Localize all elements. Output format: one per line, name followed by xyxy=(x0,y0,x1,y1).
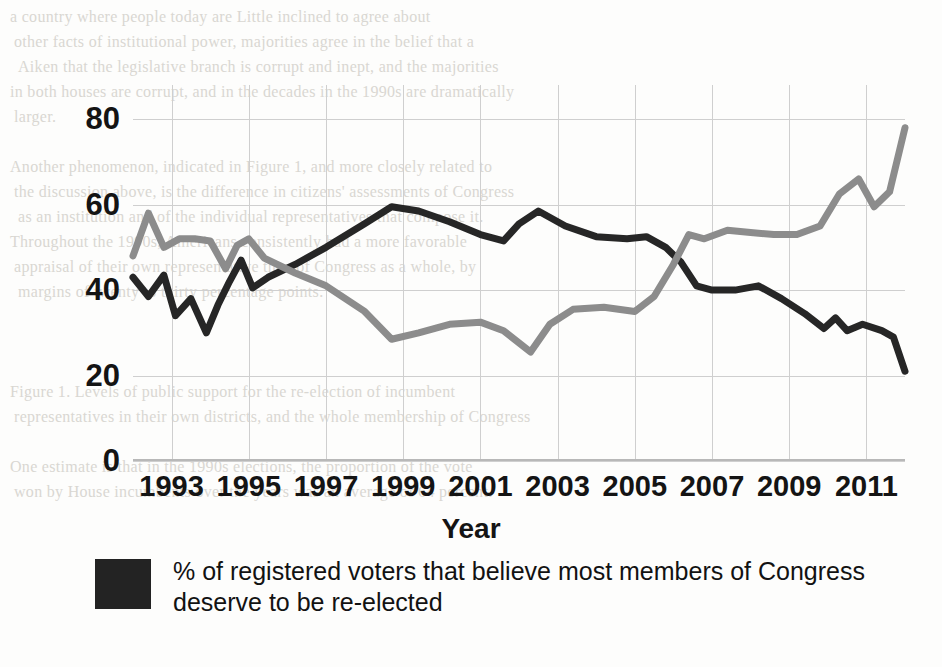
y-tick-60: 60 xyxy=(10,187,120,223)
x-tick-1999: 1999 xyxy=(371,470,436,503)
y-tick-20: 20 xyxy=(10,358,120,394)
y-tick-40: 40 xyxy=(10,272,120,308)
chart-legend: % of registered voters that believe most… xyxy=(95,556,865,618)
x-tick-2007: 2007 xyxy=(680,470,745,503)
chart-figure: 020406080 199319951997199920012003200520… xyxy=(0,0,942,667)
legend-label-line-2: deserve to be re-elected xyxy=(173,587,865,618)
x-axis-title: Year xyxy=(0,513,942,545)
x-tick-2005: 2005 xyxy=(603,470,668,503)
legend-label-congress: % of registered voters that believe most… xyxy=(173,556,865,618)
x-tick-1993: 1993 xyxy=(139,470,204,503)
legend-swatch-congress xyxy=(95,559,151,609)
y-tick-0: 0 xyxy=(10,443,120,479)
legend-label-line-1: % of registered voters that believe most… xyxy=(173,556,865,587)
y-tick-80: 80 xyxy=(10,101,120,137)
x-tick-2003: 2003 xyxy=(525,470,590,503)
x-tick-2001: 2001 xyxy=(448,470,513,503)
x-tick-2011: 2011 xyxy=(835,470,898,503)
x-tick-1995: 1995 xyxy=(217,470,282,503)
x-tick-1997: 1997 xyxy=(294,470,359,503)
x-tick-2009: 2009 xyxy=(757,470,822,503)
